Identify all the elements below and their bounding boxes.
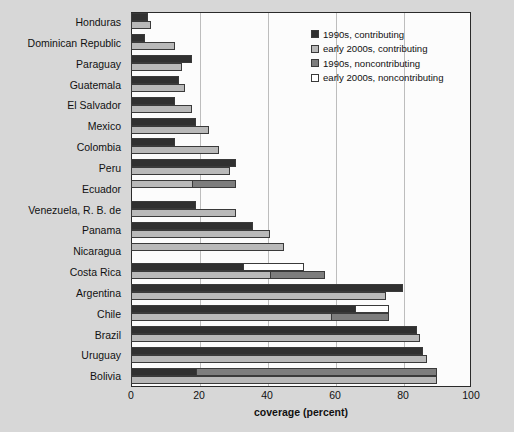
category-label: Venezuela, R. B. de [28,200,121,221]
legend-swatch-icon [311,74,319,82]
bar-group [131,304,471,325]
category-label: Argentina [76,283,121,304]
legend-item: early 2000s, contributing [311,42,471,57]
x-tick-label: 60 [329,389,341,401]
bar-segment [132,231,269,237]
bar [131,34,145,42]
bar-segment [132,147,218,153]
bar-group [131,345,471,366]
bar [131,305,389,313]
bar-segment [132,160,235,166]
x-axis-ticks: 020406080100 [131,389,471,405]
bar-segment [132,139,174,145]
legend-label: 1990s, contributing [323,29,404,40]
category-label: El Salvador [67,95,121,116]
bar-group [131,241,471,262]
bar [131,243,284,251]
bar [131,292,386,300]
category-label: Paraguay [76,54,121,75]
category-label: Nicaragua [73,241,121,262]
bar-segment [132,348,422,354]
x-tick-label: 20 [193,389,205,401]
bar-segment [132,35,144,41]
bar [131,21,151,29]
legend-swatch-icon [311,59,319,67]
legend-item: 1990s, contributing [311,27,471,42]
chart-figure: HondurasDominican RepublicParaguayGuatem… [0,0,514,432]
legend-label: early 2000s, contributing [323,43,428,54]
bar [131,180,236,188]
bar-segment [132,369,196,375]
bar-segment [132,56,191,62]
bar-segment [132,168,229,174]
category-label: Brazil [95,325,121,346]
category-axis-labels: HondurasDominican RepublicParaguayGuatem… [0,12,127,387]
bar [131,376,437,384]
category-label: Costa Rica [70,262,121,283]
bar-segment [132,306,355,312]
bar [131,159,236,167]
bar-group [131,220,471,241]
bar [131,222,253,230]
x-tick-label: 80 [397,389,409,401]
bar-segment [243,264,303,270]
bar-group [131,366,471,387]
category-label: Panama [82,220,121,241]
bar [131,347,423,355]
bar-segment [132,43,174,49]
bar [131,326,417,334]
legend-label: 1990s, noncontributing [323,58,420,69]
bar-segment [132,293,385,299]
bar [131,105,192,113]
category-label: Colombia [77,137,121,158]
bar [131,63,182,71]
x-tick-label: 100 [462,389,480,401]
category-label: Bolivia [90,366,121,387]
bar-segment [132,335,419,341]
bar [131,334,420,342]
bar-segment [192,181,235,187]
bar-segment [132,14,147,20]
category-label: Chile [97,304,121,325]
legend-item: early 2000s, noncontributing [311,71,471,86]
legend-swatch-icon [311,30,319,38]
bar-segment [132,181,192,187]
bar [131,263,304,271]
category-label: Uruguay [81,345,121,366]
bar-segment [132,22,150,28]
bar-segment [132,202,195,208]
bar [131,271,325,279]
bar [131,313,389,321]
legend-label: early 2000s, noncontributing [323,72,444,83]
bar-segment [132,327,416,333]
bar-segment [132,98,174,104]
bar [131,284,403,292]
bar [131,146,219,154]
category-label: Guatemala [70,75,121,96]
bar-segment [132,210,235,216]
bar-segment [331,314,388,320]
x-tick-label: 0 [128,389,134,401]
bar [131,355,427,363]
bar [131,201,196,209]
bar [131,13,148,21]
bar [131,167,230,175]
bar-group [131,158,471,179]
bar-group [131,200,471,221]
x-axis-title: coverage (percent) [131,406,471,418]
bar [131,55,192,63]
bar-group [131,116,471,137]
bar-segment [132,77,178,83]
category-label: Ecuador [82,179,121,200]
bar-segment [132,285,402,291]
bar [131,76,179,84]
bar [131,84,185,92]
bar-group [131,95,471,116]
bar-segment [132,264,243,270]
x-tick-label: 40 [261,389,273,401]
bar [131,118,196,126]
bar-segment [132,314,331,320]
bar-group [131,325,471,346]
bar [131,230,270,238]
bar-group [131,137,471,158]
